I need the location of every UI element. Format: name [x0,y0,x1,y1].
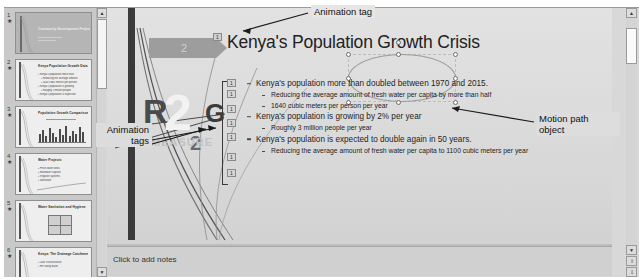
thumbnail-grid-diagram [48,215,72,235]
bullet-marker-icon [262,128,265,129]
body-animation-tag-column[interactable]: 1 1 1 1 1 1 1 [222,79,240,187]
resize-handle-n[interactable] [396,52,401,57]
bullet-marker-icon [262,151,265,152]
animation-tag[interactable]: 1 [227,133,236,141]
thumbnail-slide-4[interactable]: 4 ★ Water Projects ▪ Fresh water wells ▪… [4,152,96,198]
main-vertical-scrollbar[interactable]: ▲ ▼ ⇧ ⇩ [626,8,637,277]
bullet-marker-icon [247,116,251,118]
bullet-text: Kenya's population more than doubled bet… [256,79,488,88]
thumbnail-title: Water Projects [38,158,78,162]
scrollbar-thumb[interactable] [97,19,107,89]
bullet-text: Kenya's population is growing by 2% per … [256,112,421,121]
bullet-level1[interactable]: Kenya's population more than doubled bet… [245,78,595,89]
pentagon-shape-label: 2 [181,42,187,54]
bullet-text: Roughly 3 million people per year [271,124,372,131]
rotate-handle[interactable] [396,40,401,45]
thumbnail-title: Kenya: The Drainage Catchments [38,252,88,256]
thumbnail-title: Kenya Population Growth Data [38,64,88,68]
thumbnail-bar-chart [38,124,88,142]
animation-tag[interactable]: 1 [227,79,236,87]
bullet-text: Reducing the average amount of fresh wat… [271,147,528,154]
scrollbar-thumb[interactable] [626,28,637,64]
animation-star-icon: ★ [7,160,12,165]
watermark-word: MEASURE [151,136,213,148]
scroll-down-button[interactable]: ▼ [97,267,107,277]
thumbnail-preview: Community Development Projects - Kenya [15,12,92,54]
thumbnail-preview: Kenya: The Drainage Catchments ▪ Lake Vi… [15,247,92,277]
animation-tag[interactable]: 1 [227,105,236,113]
thumbnail-title: Population Growth Comparison [38,111,88,115]
thumbnail-preview: Kenya Population Growth Data ▪ Kenya's p… [15,59,92,101]
thumbnail-slide-3[interactable]: 3 ★ Population Growth Comparison [4,105,96,151]
animation-star-icon: ★ [7,254,12,259]
animation-star-icon: ★ [7,19,12,24]
scroll-down-button[interactable]: ▼ [626,245,637,255]
bullet-level2[interactable]: Reducing the average amount of fresh wat… [245,90,595,100]
thumbnail-preview: Water Projects ▪ Fresh water wells ▪ Rai… [15,153,92,195]
thumbnail-slide-1[interactable]: 1 ★ Community Development Projects - Ken… [4,11,96,57]
previous-slide-button[interactable]: ⇧ [626,256,637,266]
animation-star-icon: ★ [7,66,12,71]
watermark-big-two: 2 [164,88,192,138]
thumbnail-slide-2[interactable]: 2 ★ Kenya Population Growth Data ▪ Kenya… [4,58,96,104]
bullet-marker-icon [247,83,251,85]
scroll-up-button[interactable]: ▲ [97,8,107,18]
animation-tag[interactable]: 1 [227,90,236,98]
animation-star-icon: ★ [7,207,12,212]
scroll-up-button[interactable]: ▲ [626,8,637,18]
animation-tag[interactable]: 1 [227,169,236,177]
bullet-marker-icon [247,138,251,140]
presentation-editor-window: 1 ★ Community Development Projects - Ken… [0,0,639,280]
callout-animation-tags: Animation tags [96,123,152,147]
notes-placeholder: Click to add notes [113,255,177,264]
animation-tag[interactable]: 1 [227,153,236,161]
bullet-marker-icon [262,95,265,96]
callout-motion-path-object: Motion path object [536,112,620,136]
thumbnail-preview: Population Growth Comparison [15,106,92,148]
bullet-text: Reducing the average amount of fresh wat… [271,91,491,98]
animation-star-icon: ★ [7,113,12,118]
next-slide-button[interactable]: ⇩ [626,267,637,277]
notes-pane[interactable]: Click to add notes [107,246,612,276]
bullet-text: 1640 cubic meters per person per year [271,102,388,109]
bullet-text: Kenya's population is expected to double… [256,135,472,144]
resize-handle-ne[interactable] [453,52,458,57]
bullet-level2[interactable]: Reducing the average amount of fresh wat… [245,146,595,156]
thumbnail-preview: Water Sanitation and Hygiene [15,200,92,242]
callout-animation-tag: Animation tag [311,5,375,18]
resize-handle-nw[interactable] [346,52,351,57]
title-animation-tag[interactable]: 1 [213,33,222,41]
bullet-marker-icon [262,106,265,107]
animation-tag[interactable]: 1 [227,119,236,127]
bullet-level2[interactable]: 1640 cubic meters per person per year [245,101,595,111]
slide-thumbnail-panel[interactable]: 1 ★ Community Development Projects - Ken… [4,8,96,277]
pentagon-arrow-shape[interactable]: 2 [149,38,227,58]
thumbnail-slide-6[interactable]: 6 ★ Kenya: The Drainage Catchments ▪ Lak… [4,246,96,277]
thumbnail-title: Community Development Projects - Kenya [38,27,90,31]
thumbnail-title: Water Sanitation and Hygiene [38,205,88,209]
thumbnail-slide-5[interactable]: 5 ★ Water Sanitation and Hygiene [4,199,96,245]
